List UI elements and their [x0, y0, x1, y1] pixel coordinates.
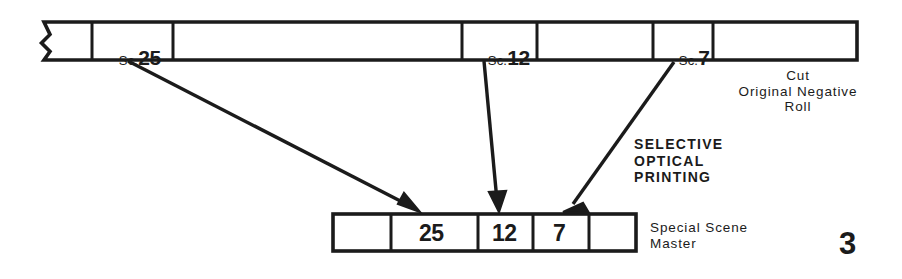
- arrow-scene-25: [128, 61, 420, 212]
- bottom-cell-label-25: 25: [419, 222, 444, 245]
- top-strip-outline: [42, 22, 858, 60]
- arrow-group: [128, 61, 674, 213]
- arrow-scene-25-head: [398, 193, 420, 212]
- top-cell-prefix-sc7: Sc.: [679, 53, 698, 68]
- arrow-scene-12-head: [489, 191, 506, 212]
- arrow-scene-25-shaft: [128, 61, 412, 207]
- bottom-cell-label-12: 12: [492, 222, 517, 245]
- arrow-scene-7-head: [563, 203, 589, 213]
- page-number: 3: [839, 228, 856, 260]
- bottom-strip-graphic: [333, 214, 636, 251]
- top-strip-graphic: [42, 22, 858, 60]
- top-cell-prefix-sc12: Sc.: [488, 53, 507, 68]
- top-cell-number-sc25: 25: [138, 46, 161, 69]
- top-strip-caption: Cut Original Negative Roll: [700, 68, 896, 115]
- process-note: SELECTIVE OPTICAL PRINTING: [634, 136, 814, 186]
- top-cell-number-sc12: 12: [507, 46, 530, 69]
- bottom-strip-outline: [333, 214, 636, 251]
- bottom-strip-caption: Special Scene Master: [650, 220, 830, 251]
- top-cell-label-sc12: Sc.12: [470, 31, 530, 85]
- top-cell-label-sc25: Sc.25: [101, 31, 161, 85]
- top-cell-prefix-sc25: Sc.: [119, 53, 138, 68]
- top-cell-number-sc7: 7: [698, 46, 709, 69]
- bottom-cell-label-7: 7: [553, 222, 565, 245]
- figure-selective-optical-printing: Sc.25 Sc.12 Sc.7 Cut Original Negative R…: [0, 0, 902, 279]
